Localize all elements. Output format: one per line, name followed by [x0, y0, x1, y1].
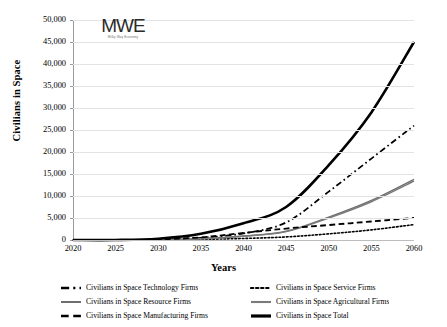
legend-item[interactable]: Civilians in Space Total [250, 312, 440, 320]
y-axis-tick-label: 10,000 [8, 192, 66, 200]
legend-swatch [60, 284, 82, 292]
y-axis-tick-label: 45,000 [8, 38, 66, 46]
legend-item[interactable]: Civilians in Space Manufacturing Firms [60, 312, 250, 320]
gridline [73, 42, 414, 43]
x-axis-tick-label: 2060 [394, 245, 434, 253]
y-axis-tick-label: 20,000 [8, 148, 66, 156]
gridline [73, 152, 414, 153]
y-axis-tick-label: 30,000 [8, 104, 66, 112]
gridline [73, 174, 414, 175]
y-axis-tick-label: 35,000 [8, 82, 66, 90]
x-axis-tick-label: 2035 [181, 245, 221, 253]
y-axis-tick-label: 50,000 [8, 16, 66, 24]
gridline [73, 86, 414, 87]
plot-area [73, 20, 414, 240]
x-axis-tick-label: 2025 [96, 245, 136, 253]
series-line [73, 42, 414, 240]
legend-label: Civilians in Space Technology Firms [86, 284, 198, 292]
legend-item[interactable]: Civilians in Space Agricultural Firms [250, 298, 440, 306]
x-axis-tick-label: 2045 [266, 245, 306, 253]
legend-label: Civilians in Space Total [276, 312, 349, 320]
legend-swatch [250, 298, 272, 306]
gridline [73, 218, 414, 219]
gridline [73, 240, 414, 241]
legend-swatch [250, 284, 272, 292]
legend-swatch [250, 312, 272, 320]
chart-legend: Civilians in Space Technology FirmsCivil… [60, 281, 440, 323]
x-axis-tick-label: 2030 [138, 245, 178, 253]
y-axis-tick-label: 25,000 [8, 126, 66, 134]
legend-item[interactable]: Civilians in Space Service Firms [250, 284, 440, 292]
y-axis-tick-label: 40,000 [8, 60, 66, 68]
legend-label: Civilians in Space Resource Firms [86, 298, 191, 306]
legend-label: Civilians in Space Manufacturing Firms [86, 312, 208, 320]
x-axis-title: Years [0, 262, 447, 273]
line-chart: Civilians in Space 50,00045,00040,00035,… [0, 0, 447, 327]
x-axis-tick-label: 2050 [309, 245, 349, 253]
gridline [73, 20, 414, 21]
gridline [73, 196, 414, 197]
x-axis-tick-label: 2020 [53, 245, 93, 253]
y-axis-tick-label: 0 [8, 236, 66, 244]
legend-swatch [60, 298, 82, 306]
x-axis-tick-label: 2040 [224, 245, 264, 253]
y-axis-tick-label: 5,000 [8, 214, 66, 222]
legend-swatch [60, 312, 82, 320]
legend-label: Civilians in Space Service Firms [276, 284, 376, 292]
legend-item[interactable]: Civilians in Space Technology Firms [60, 284, 250, 292]
y-axis-tick-label: 15,000 [8, 170, 66, 178]
gridline [73, 108, 414, 109]
legend-item[interactable]: Civilians in Space Resource Firms [60, 298, 250, 306]
gridline [73, 64, 414, 65]
legend-label: Civilians in Space Agricultural Firms [276, 298, 389, 306]
x-axis-tick-label: 2055 [351, 245, 391, 253]
gridline [73, 130, 414, 131]
